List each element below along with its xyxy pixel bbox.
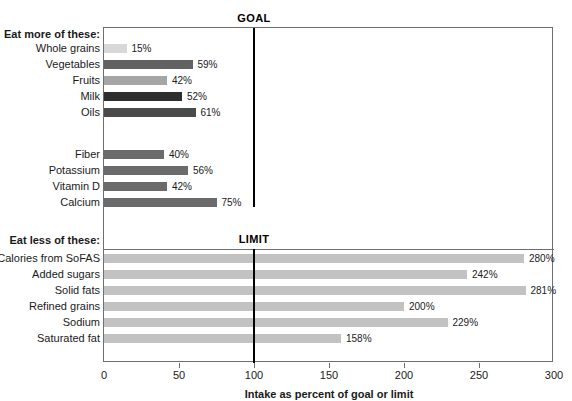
x-axis-tick: [479, 363, 480, 368]
category-label: Fruits: [0, 75, 100, 86]
bar-value-label: 56%: [193, 166, 213, 175]
bar-value-label: 242%: [472, 270, 498, 279]
bar: [104, 198, 217, 207]
bar: [104, 108, 196, 117]
limit-reference-label: LIMIT: [239, 233, 270, 245]
goal-reference-line: [253, 28, 255, 207]
bar: [104, 76, 167, 85]
category-label: Sodium: [0, 317, 100, 328]
bar: [104, 318, 448, 327]
category-label: Whole grains: [0, 43, 100, 54]
x-axis-tick: [254, 363, 255, 368]
bar: [104, 166, 188, 175]
section-heading: Eat more of these:: [0, 29, 100, 40]
bar-value-label: 75%: [222, 198, 242, 207]
bar-value-label: 42%: [172, 182, 192, 191]
bar-value-label: 42%: [172, 76, 192, 85]
bar: [104, 286, 526, 295]
x-axis-title: Intake as percent of goal or limit: [104, 388, 554, 400]
bar: [104, 44, 127, 53]
section-divider: [104, 249, 554, 250]
x-axis-tick-label: 50: [173, 369, 185, 381]
bar-value-label: 59%: [198, 60, 218, 69]
category-label: Vegetables: [0, 59, 100, 70]
category-label: Vitamin D: [0, 181, 100, 192]
bar: [104, 92, 182, 101]
x-axis-tick: [179, 363, 180, 368]
bar: [104, 254, 524, 263]
plot-area: Eat more of these:Whole grainsVegetables…: [103, 27, 553, 362]
bar-value-label: 40%: [169, 150, 189, 159]
x-axis-tick-label: 200: [395, 369, 413, 381]
category-label-column: Eat more of these:Whole grainsVegetables…: [1, 28, 100, 363]
category-label: Calories from SoFAS: [0, 253, 100, 264]
bar-value-label: 61%: [201, 108, 221, 117]
limit-reference-line: [253, 249, 255, 363]
bar-value-label: 280%: [529, 254, 555, 263]
x-axis-tick: [329, 363, 330, 368]
category-label: Oils: [0, 107, 100, 118]
category-label: Fiber: [0, 149, 100, 160]
x-axis-tick-label: 250: [470, 369, 488, 381]
category-label: Added sugars: [0, 269, 100, 280]
bar-value-label: 229%: [453, 318, 479, 327]
bar-value-label: 158%: [346, 334, 372, 343]
category-label: Saturated fat: [0, 333, 100, 344]
x-axis-tick: [404, 363, 405, 368]
bar: [104, 334, 341, 343]
section-heading: Eat less of these:: [0, 235, 100, 246]
x-axis-tick-label: 150: [320, 369, 338, 381]
x-axis-tick-label: 300: [545, 369, 563, 381]
category-label: Potassium: [0, 165, 100, 176]
bar: [104, 60, 193, 69]
bar: [104, 150, 164, 159]
bar-value-label: 281%: [531, 286, 557, 295]
x-axis-tick-label: 100: [245, 369, 263, 381]
category-label: Calcium: [0, 197, 100, 208]
category-label: Refined grains: [0, 301, 100, 312]
category-label: Milk: [0, 91, 100, 102]
chart-container: Eat more of these:Whole grainsVegetables…: [0, 0, 572, 401]
bar-value-label: 200%: [409, 302, 435, 311]
x-axis-tick-label: 0: [101, 369, 107, 381]
bar-value-label: 52%: [187, 92, 207, 101]
category-label: Solid fats: [0, 285, 100, 296]
goal-reference-label: GOAL: [237, 12, 270, 24]
bar: [104, 270, 467, 279]
bar: [104, 182, 167, 191]
bar-value-label: 15%: [132, 44, 152, 53]
